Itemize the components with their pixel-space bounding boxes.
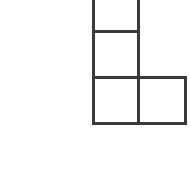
polyomino-cell-cell-middle <box>93 31 138 77</box>
polyomino-cell-cell-top <box>93 0 138 31</box>
polyomino-cell-cell-bottom-left <box>93 77 138 123</box>
polyomino-cell-cell-bottom-right <box>138 77 185 123</box>
polyomino-figure <box>0 0 190 175</box>
drawing-canvas <box>0 0 190 175</box>
